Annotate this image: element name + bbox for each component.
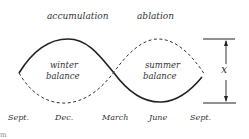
arrowhead-up-icon — [224, 40, 228, 46]
amplitude-label: x — [221, 63, 227, 76]
mass-balance-diagram: accumulation ablation winter balance sum… — [0, 0, 249, 139]
month-label-june: June — [149, 113, 167, 122]
month-label-sept-start: Sept. — [8, 113, 29, 122]
month-label-march: March — [102, 113, 128, 122]
summer-label-line2: balance — [143, 71, 177, 81]
month-label-sept-end: Sept. — [190, 113, 211, 122]
accumulation-label: accumulation — [47, 11, 109, 21]
winter-label-line1: winter — [50, 60, 78, 70]
month-label-dec: Dec. — [55, 113, 73, 122]
corner-fragment-text: m — [0, 131, 7, 139]
ablation-label: ablation — [137, 11, 174, 21]
winter-label-line2: balance — [46, 71, 80, 81]
arrowhead-down-icon — [224, 96, 228, 102]
summer-label-line1: summer — [145, 60, 180, 70]
